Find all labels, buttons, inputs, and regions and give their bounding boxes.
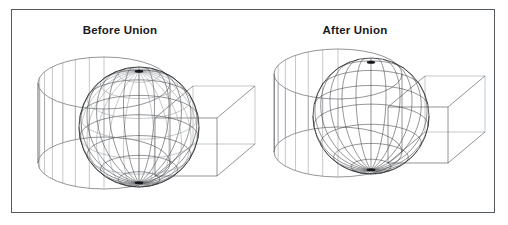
figure-root: Before Union After Union bbox=[0, 0, 508, 225]
panel-title-after: After Union bbox=[265, 24, 445, 36]
figure-border bbox=[11, 9, 495, 213]
panel-title-before: Before Union bbox=[30, 24, 210, 36]
